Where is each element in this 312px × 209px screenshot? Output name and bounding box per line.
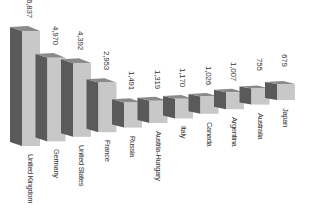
value-label: 4,392 — [76, 31, 85, 50]
category-label: Canada — [205, 122, 214, 146]
value-label: 755 — [255, 58, 264, 71]
category-label: Japan — [281, 108, 290, 127]
category-label: Germany — [52, 149, 61, 178]
category-label: Argentina — [230, 117, 239, 146]
category-label: Austria-Hungary — [154, 131, 163, 181]
category-label: France — [103, 140, 112, 162]
value-label: 1,007 — [229, 62, 238, 81]
value-label: 1,026 — [204, 66, 213, 85]
bar-chart: 6,837United Kingdom4,970Germany4,392Unit… — [0, 0, 312, 209]
value-label: 2,953 — [102, 51, 111, 70]
value-label: 6,837 — [25, 0, 34, 18]
category-label: United Kingdom — [26, 154, 35, 203]
category-label: Australia — [256, 113, 265, 139]
category-label: United States — [77, 145, 86, 186]
value-label: 1,170 — [178, 68, 187, 87]
value-label: 1,319 — [153, 70, 162, 89]
bar — [265, 81, 295, 100]
value-label: 4,970 — [51, 26, 60, 45]
category-label: Russia — [128, 136, 137, 157]
category-label: Italy — [179, 126, 188, 138]
value-label: 679 — [280, 54, 289, 67]
value-label: 1,491 — [127, 71, 136, 90]
